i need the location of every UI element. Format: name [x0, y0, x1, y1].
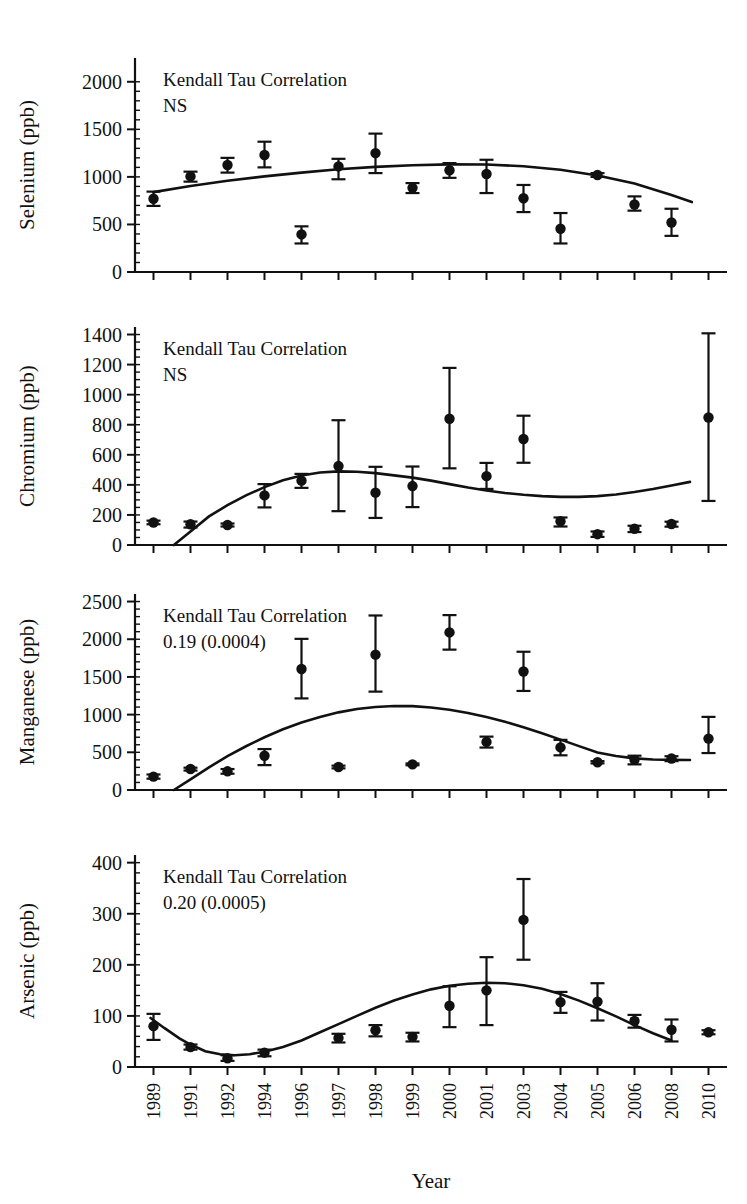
data-marker: [259, 1047, 269, 1057]
x-tick-label: 2010: [699, 1083, 719, 1119]
y-tick-label: 2500: [82, 591, 122, 613]
y-tick-label: 1500: [82, 118, 122, 140]
data-marker: [222, 1053, 232, 1063]
data-point: [702, 717, 716, 753]
data-marker: [407, 1032, 417, 1042]
data-point: [591, 170, 605, 180]
data-point: [258, 749, 272, 765]
data-point: [258, 1047, 272, 1057]
data-point: [184, 171, 198, 181]
data-point: [295, 639, 309, 699]
x-tick-label: 1998: [366, 1083, 386, 1119]
data-marker: [296, 229, 306, 239]
data-marker: [592, 170, 602, 180]
y-tick-label: 2000: [82, 71, 122, 93]
data-point: [184, 1042, 198, 1052]
y-tick-label: 2000: [82, 628, 122, 650]
data-marker: [185, 519, 195, 529]
data-marker: [629, 524, 639, 534]
data-marker: [481, 737, 491, 747]
data-marker: [444, 414, 454, 424]
y-tick-label: 200: [92, 504, 122, 526]
data-marker: [370, 148, 380, 158]
data-marker: [555, 224, 565, 234]
data-marker: [444, 1000, 454, 1010]
data-marker: [444, 165, 454, 175]
data-marker: [296, 664, 306, 674]
data-point: [295, 226, 309, 243]
x-tick-label: 1992: [218, 1083, 238, 1119]
data-point: [221, 520, 235, 530]
data-marker: [703, 733, 713, 743]
data-marker: [185, 764, 195, 774]
data-point: [628, 196, 642, 210]
x-tick-label: 2008: [662, 1083, 682, 1119]
x-tick-label: 2006: [625, 1083, 645, 1119]
data-marker: [481, 985, 491, 995]
data-marker: [333, 461, 343, 471]
fit-curve: [151, 983, 672, 1056]
y-tick-label: 500: [92, 213, 122, 235]
data-marker: [259, 490, 269, 500]
data-point: [443, 986, 457, 1027]
y-tick-label: 600: [92, 444, 122, 466]
data-point: [258, 484, 272, 507]
data-marker: [518, 666, 528, 676]
data-point: [221, 158, 235, 173]
y-tick-label: 1200: [82, 354, 122, 376]
x-tick-label: 1997: [329, 1083, 349, 1119]
data-point: [554, 516, 568, 526]
data-point: [406, 183, 420, 193]
data-marker: [518, 193, 528, 203]
data-point: [480, 737, 494, 748]
data-marker: [481, 471, 491, 481]
data-point: [480, 957, 494, 1025]
x-axis-tick-labels: 1989199119921994199619971998199920002001…: [144, 1083, 719, 1119]
data-point: [406, 1032, 420, 1042]
data-point: [369, 1025, 383, 1036]
panel-annotation-line2: NS: [163, 364, 187, 385]
y-tick-label: 0: [112, 779, 122, 801]
data-marker: [370, 649, 380, 659]
data-marker: [703, 1027, 713, 1037]
data-point: [665, 209, 679, 236]
data-point: [147, 192, 161, 206]
y-tick-label: 1000: [82, 166, 122, 188]
y-tick-label: 300: [92, 903, 122, 925]
x-tick-label: 2000: [440, 1083, 460, 1119]
y-tick-label: 1000: [82, 384, 122, 406]
panel-annotation-line2: NS: [163, 95, 187, 116]
data-marker: [222, 766, 232, 776]
data-point: [517, 652, 531, 691]
panel-manganese: 05001000150020002500Manganese (ppb)Kenda…: [15, 591, 727, 801]
data-point: [332, 420, 346, 511]
fit-curve: [174, 706, 690, 790]
y-axis-title: Selenium (ppb): [15, 100, 39, 230]
panel-annotation-line1: Kendall Tau Correlation: [163, 338, 348, 359]
data-marker: [629, 199, 639, 209]
data-marker: [296, 475, 306, 485]
data-point: [628, 755, 642, 765]
data-point: [517, 185, 531, 212]
data-point: [258, 142, 272, 168]
data-marker: [185, 1042, 195, 1052]
data-marker: [555, 997, 565, 1007]
data-point: [406, 467, 420, 508]
fit-curve: [174, 471, 690, 545]
data-marker: [629, 1016, 639, 1026]
data-point: [517, 416, 531, 463]
data-marker: [148, 771, 158, 781]
y-tick-label: 1400: [82, 324, 122, 346]
data-marker: [666, 519, 676, 529]
data-points: [147, 134, 679, 244]
data-marker: [407, 481, 417, 491]
data-marker: [222, 520, 232, 530]
panel-annotation-line1: Kendall Tau Correlation: [163, 866, 348, 887]
data-marker: [333, 762, 343, 772]
data-marker: [222, 160, 232, 170]
data-marker: [407, 759, 417, 769]
data-point: [369, 615, 383, 691]
data-point: [665, 519, 679, 529]
data-point: [147, 771, 161, 781]
data-marker: [333, 1033, 343, 1043]
